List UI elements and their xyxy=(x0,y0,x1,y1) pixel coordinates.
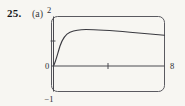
data-curve xyxy=(54,30,165,67)
graph-svg: 2 0 −1 8 xyxy=(0,0,185,106)
y-axis-zero-label: 0 xyxy=(45,61,49,71)
plot-frame xyxy=(52,17,165,92)
plot-area: 2 0 −1 8 xyxy=(0,0,185,106)
y-axis-bottom-label: −1 xyxy=(44,94,53,104)
y-axis-top-label: 2 xyxy=(47,5,51,15)
figure-container: 25. (a) 2 0 −1 8 xyxy=(0,0,185,106)
x-axis-right-label: 8 xyxy=(170,61,174,71)
